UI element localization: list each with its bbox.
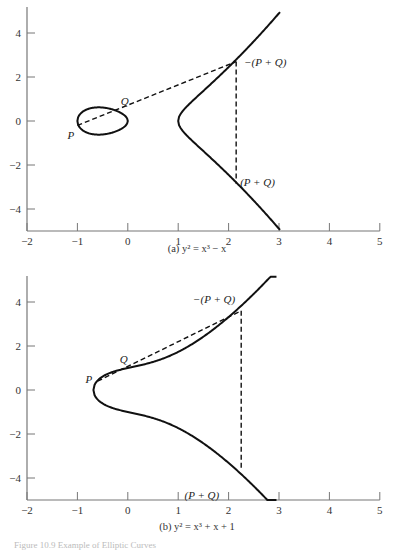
y-tick-label: 4 <box>16 296 22 308</box>
y-tick-label: 2 <box>16 340 22 352</box>
y-tick-label: −4 <box>9 472 21 484</box>
neg-sum-label: −(P + Q) <box>244 56 286 69</box>
x-tick-label: 4 <box>327 504 333 516</box>
chart-b-plot: −4−2024−2−1012345PQ−(P + Q)(P + Q) <box>0 270 394 546</box>
elliptic-curve <box>178 12 280 230</box>
y-tick-label: −4 <box>9 203 21 215</box>
chart-a-caption: (a) y² = x³ − x <box>0 243 394 254</box>
sum-label: (P + Q) <box>184 489 219 502</box>
figure-caption: Figure 10.9 Example of Elliptic Curves <box>14 540 156 550</box>
y-tick-label: 4 <box>16 27 22 39</box>
x-tick-label: 3 <box>276 504 282 516</box>
sum-label: (P + Q) <box>240 176 275 189</box>
y-tick-label: 2 <box>16 71 22 83</box>
y-tick-label: 0 <box>16 384 22 396</box>
chart-b-caption: (b) y² = x³ + x + 1 <box>0 521 394 532</box>
x-tick-label: 5 <box>377 504 383 516</box>
y-tick-label: −2 <box>9 428 21 440</box>
y-tick-label: 0 <box>16 115 22 127</box>
x-tick-label: −1 <box>72 504 84 516</box>
point-q-label: Q <box>121 95 129 107</box>
x-tick-label: 1 <box>175 504 181 516</box>
axes: −4−2024−2−1012345 <box>9 276 383 516</box>
axes: −4−2024−2−1012345 <box>9 7 383 247</box>
point-q-label: Q <box>120 353 128 365</box>
chart-a: −4−2024−2−1012345PQ−(P + Q)(P + Q) (a) y… <box>0 0 394 268</box>
chart-b: −4−2024−2−1012345PQ−(P + Q)(P + Q) (b) y… <box>0 270 394 546</box>
secant-line <box>77 62 236 126</box>
point-p-label: P <box>85 373 93 385</box>
x-tick-label: 0 <box>125 504 131 516</box>
x-tick-label: 2 <box>226 504 232 516</box>
neg-sum-label: −(P + Q) <box>193 293 235 306</box>
x-tick-label: −2 <box>21 504 33 516</box>
y-tick-label: −2 <box>9 159 21 171</box>
elliptic-curve <box>77 107 127 134</box>
elliptic-curve <box>93 277 276 500</box>
point-p-label: P <box>66 129 74 141</box>
chart-a-plot: −4−2024−2−1012345PQ−(P + Q)(P + Q) <box>0 0 394 268</box>
